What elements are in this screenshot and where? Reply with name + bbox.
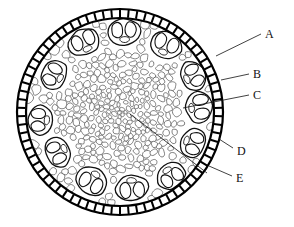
parenchyma-cell	[125, 164, 133, 169]
parenchyma-cell	[65, 96, 71, 102]
parenchyma-cell	[111, 136, 116, 140]
xylem-vessel	[120, 182, 131, 198]
parenchyma-cell	[123, 119, 128, 124]
leader-line-e	[209, 166, 232, 176]
leader-line-b	[221, 74, 249, 80]
parenchyma-cell	[124, 136, 129, 141]
parenchyma-cell	[140, 98, 144, 103]
parenchyma-cell	[125, 124, 130, 128]
parenchyma-cell	[131, 127, 135, 131]
parenchyma-cell	[108, 115, 112, 119]
parenchyma-cell	[92, 57, 98, 63]
parenchyma-cell	[74, 106, 80, 112]
phloem-patch	[127, 178, 137, 183]
parenchyma-cell	[140, 39, 145, 45]
phloem-patch	[120, 37, 130, 43]
parenchyma-cell	[177, 90, 182, 97]
parenchyma-cell	[113, 123, 118, 128]
label-e: E	[236, 172, 243, 184]
parenchyma-cell	[62, 169, 69, 175]
parenchyma-cell	[138, 111, 143, 116]
parenchyma-cell	[151, 141, 157, 147]
parenchyma-cell	[80, 102, 85, 107]
parenchyma-cell	[60, 111, 66, 115]
parenchyma-cell	[153, 77, 159, 82]
parenchyma-cell	[127, 120, 132, 124]
parenchyma-cell	[102, 112, 107, 118]
parenchyma-cell	[141, 130, 145, 135]
parenchyma-cell	[151, 90, 156, 99]
parenchyma-cell	[103, 119, 108, 124]
parenchyma-cell	[56, 92, 61, 101]
parenchyma-cell	[172, 129, 177, 135]
parenchyma-cell	[113, 128, 119, 134]
parenchyma-cell	[147, 77, 152, 82]
phloem-patch	[44, 116, 49, 125]
parenchyma-cell	[116, 140, 122, 145]
parenchyma-cell	[149, 166, 155, 172]
parenchyma-cell	[119, 155, 126, 160]
parenchyma-cell	[61, 130, 67, 136]
parenchyma-cell	[89, 137, 96, 143]
parenchyma-cell	[157, 84, 164, 92]
parenchyma-cell	[139, 89, 145, 94]
parenchyma-cell	[145, 91, 149, 96]
diagram-page: A B C D E	[0, 0, 294, 227]
parenchyma-cell	[135, 97, 139, 102]
parenchyma-cell	[88, 116, 94, 121]
parenchyma-cell	[98, 123, 103, 128]
label-d: D	[237, 145, 246, 157]
parenchyma-cell	[130, 89, 135, 94]
leader-line-d	[219, 139, 233, 148]
parenchyma-cell	[150, 159, 157, 164]
parenchyma-cell	[86, 98, 91, 103]
parenchyma-cell	[149, 61, 154, 67]
parenchyma-cell	[73, 65, 79, 72]
parenchyma-cell	[110, 160, 117, 168]
parenchyma-cell	[138, 84, 143, 89]
parenchyma-cell	[109, 168, 117, 174]
parenchyma-cell	[133, 73, 140, 79]
parenchyma-cell	[101, 40, 109, 45]
parenchyma-cell	[107, 92, 111, 99]
parenchyma-cell	[99, 107, 104, 112]
parenchyma-cell	[145, 97, 150, 101]
xylem-vessel	[194, 108, 209, 119]
parenchyma-cell	[105, 67, 110, 72]
parenchyma-cell	[123, 101, 128, 105]
parenchyma-cell	[91, 150, 96, 155]
parenchyma-cell	[66, 116, 73, 124]
leader-line-a	[216, 34, 261, 56]
parenchyma-cell	[90, 94, 95, 99]
parenchyma-cell	[118, 145, 125, 151]
parenchyma-cell	[168, 82, 176, 91]
parenchyma-cell	[110, 176, 116, 183]
stem-cross-section-figure	[0, 0, 294, 227]
label-a: A	[265, 28, 274, 40]
parenchyma-cell	[145, 140, 151, 145]
parenchyma-cell	[118, 115, 121, 119]
parenchyma-cell	[108, 80, 113, 85]
parenchyma-cell	[108, 119, 114, 124]
parenchyma-cell	[140, 54, 148, 62]
parenchyma-cell	[164, 120, 171, 127]
parenchyma-cell	[99, 135, 104, 139]
parenchyma-cell	[76, 144, 82, 148]
parenchyma-cell	[172, 63, 177, 68]
parenchyma-cell	[163, 129, 170, 136]
parenchyma-cell	[164, 93, 169, 98]
parenchyma-cell	[110, 106, 114, 110]
vascular-bundle	[28, 105, 52, 136]
parenchyma-cell	[72, 93, 78, 98]
phloem-patch	[189, 103, 195, 112]
parenchyma-cell	[185, 52, 191, 58]
label-b: B	[253, 68, 261, 80]
parenchyma-cell	[153, 84, 158, 89]
parenchyma-cell	[68, 57, 75, 63]
xylem-vessel	[125, 22, 136, 38]
parenchyma-cell	[106, 88, 111, 93]
parenchyma-cell	[79, 148, 85, 154]
label-c: C	[253, 89, 261, 101]
parenchyma-cell	[73, 118, 79, 126]
xylem-vessel	[112, 22, 123, 37]
